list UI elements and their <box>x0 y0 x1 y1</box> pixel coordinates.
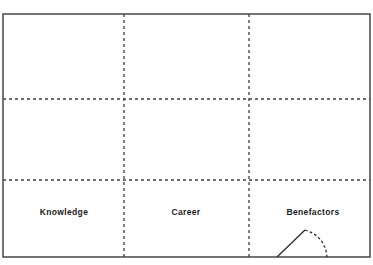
curve-falling-dashed-arc <box>305 230 327 257</box>
grid-diagram <box>0 0 373 265</box>
curve-rising-solid-segment <box>277 230 305 257</box>
label-career: Career <box>171 208 200 217</box>
diagram-canvas: KnowledgeCareerBenefactors <box>0 0 373 265</box>
outer-rectangle <box>3 14 370 257</box>
label-knowledge: Knowledge <box>40 208 89 217</box>
vertical-gridlines-group <box>124 14 249 257</box>
horizontal-gridlines-group <box>3 99 370 180</box>
label-benefactors: Benefactors <box>287 208 340 217</box>
